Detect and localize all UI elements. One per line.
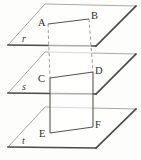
- prism-face-lower: [50, 72, 93, 133]
- prism-group: [48, 19, 93, 133]
- label-point-f: F: [95, 119, 101, 130]
- label-point-a: A: [38, 17, 46, 28]
- label-plane-t: t: [22, 135, 25, 146]
- label-plane-r: r: [22, 33, 26, 44]
- label-point-e: E: [39, 128, 45, 139]
- label-point-c: C: [38, 73, 45, 84]
- label-point-b: B: [91, 10, 98, 21]
- label-plane-s: s: [22, 81, 26, 92]
- prism-face-upper: [48, 19, 93, 78]
- plane-t-front-edge: [8, 147, 96, 148]
- geometry-figure: A B C D E F r s t: [0, 0, 141, 160]
- label-point-d: D: [95, 65, 103, 76]
- figure-canvas: A B C D E F r s t: [0, 0, 141, 160]
